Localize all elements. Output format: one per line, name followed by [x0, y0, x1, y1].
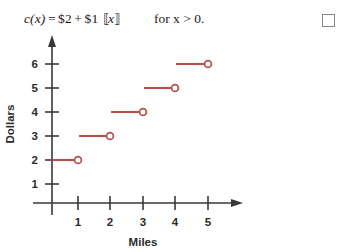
y-tick-label-2: 2	[32, 154, 38, 166]
x-tick-label-1: 1	[75, 216, 82, 228]
step-segment-1	[52, 157, 81, 164]
open-endpoint-2	[107, 133, 114, 140]
open-endpoint-3	[140, 109, 147, 116]
y-axis	[48, 35, 56, 215]
x-tick-label-2: 2	[107, 216, 113, 228]
step-function-series	[52, 61, 211, 164]
x-tick-label-4: 4	[172, 216, 179, 228]
empty-square-icon	[322, 14, 335, 27]
arrow-up-icon	[48, 35, 56, 47]
y-tick-label-5: 5	[32, 82, 39, 94]
arrow-right-icon	[231, 199, 243, 207]
x-axis-title: Miles	[129, 236, 158, 248]
chart-canvas: 6 5 4 3 2 1 1 2 3 4 5 Miles Dollars	[0, 30, 348, 252]
step-segment-4	[144, 85, 178, 92]
x-axis	[33, 199, 243, 207]
formula-equals: =	[45, 11, 58, 26]
y-tick-label-6: 6	[32, 58, 38, 70]
formula-bracket-close: ⟧	[114, 11, 119, 26]
y-tick-label-3: 3	[32, 130, 38, 142]
step-function-chart: 6 5 4 3 2 1 1 2 3 4 5 Miles Dollars	[0, 30, 348, 252]
formula-coefficient: $1	[85, 11, 99, 26]
x-axis-tick-labels: 1 2 3 4 5	[75, 216, 212, 228]
y-tick-label-1: 1	[32, 178, 39, 190]
step-segment-2	[79, 133, 113, 140]
formula-plus: +	[72, 11, 85, 26]
x-tick-label-3: 3	[140, 216, 146, 228]
step-segment-3	[111, 109, 146, 116]
y-axis-tick-labels: 6 5 4 3 2 1	[32, 58, 39, 190]
formula-condition: for x > 0.	[154, 11, 204, 27]
formula-term1: $2	[58, 11, 72, 26]
cost-function-formula: c(x)=$2+$1⟦x⟧	[24, 11, 119, 27]
open-endpoint-4	[172, 85, 179, 92]
open-endpoint-5	[205, 61, 212, 68]
step-segment-5	[176, 61, 211, 68]
y-tick-label-4: 4	[32, 106, 39, 118]
formula-lhs: c(x)	[24, 11, 45, 26]
formula-condition-text: for x > 0.	[154, 11, 204, 26]
y-axis-title: Dollars	[4, 105, 16, 144]
open-endpoint-1	[75, 157, 82, 164]
x-tick-label-5: 5	[205, 216, 212, 228]
